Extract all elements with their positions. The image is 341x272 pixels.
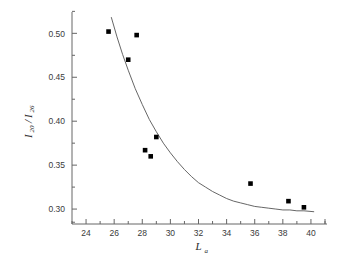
y-tick-label: 0.50 bbox=[48, 29, 65, 39]
x-tick-label: 28 bbox=[138, 228, 148, 238]
data-point-marker bbox=[143, 148, 148, 153]
data-point-marker bbox=[248, 181, 253, 186]
fit-curve bbox=[111, 18, 313, 212]
y-axis-title: I20/I26 bbox=[22, 105, 37, 139]
x-tick-label: 30 bbox=[166, 228, 176, 238]
data-point-marker bbox=[134, 33, 139, 38]
data-point-marker bbox=[106, 29, 111, 34]
data-point-marker bbox=[302, 205, 307, 210]
y-axis-title-num-sub: 20 bbox=[28, 125, 36, 133]
x-axis-title-base: L bbox=[194, 240, 201, 252]
x-tick-label: 32 bbox=[194, 228, 204, 238]
data-point-marker bbox=[126, 57, 131, 62]
data-point-marker bbox=[154, 135, 159, 140]
scatter-plot-svg: 2426283032343638400.300.350.400.450.50La… bbox=[0, 0, 341, 272]
data-point-marker bbox=[148, 154, 153, 159]
figure-caption bbox=[0, 263, 341, 272]
y-axis-title-num-base: I bbox=[22, 133, 34, 139]
data-point-marker bbox=[286, 199, 291, 204]
y-tick-label: 0.35 bbox=[48, 160, 65, 170]
y-tick-label: 0.30 bbox=[48, 204, 65, 214]
y-axis-title-slash: / bbox=[22, 119, 34, 124]
y-axis-title-den-sub: 26 bbox=[28, 105, 36, 113]
chart-figure: 2426283032343638400.300.350.400.450.50La… bbox=[0, 0, 341, 272]
y-axis-title-den-base: I bbox=[22, 113, 34, 119]
x-axis-title: La bbox=[194, 240, 208, 255]
x-tick-label: 40 bbox=[306, 228, 316, 238]
x-tick-label: 36 bbox=[250, 228, 260, 238]
x-axis-title-subscript: a bbox=[205, 247, 209, 255]
x-tick-label: 26 bbox=[109, 228, 119, 238]
x-tick-label: 24 bbox=[81, 228, 91, 238]
x-tick-label: 34 bbox=[222, 228, 232, 238]
x-tick-label: 38 bbox=[278, 228, 288, 238]
y-tick-label: 0.45 bbox=[48, 72, 65, 82]
y-tick-label: 0.40 bbox=[48, 116, 65, 126]
